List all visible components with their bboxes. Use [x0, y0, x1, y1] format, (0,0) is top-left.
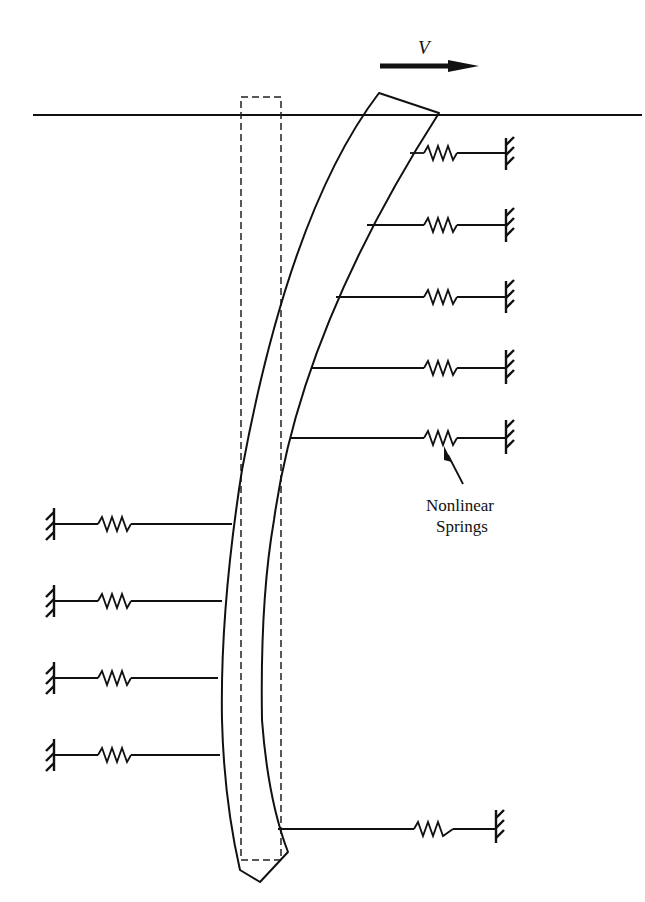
right-supports — [496, 137, 514, 843]
undeformed-pile-outline — [241, 97, 281, 860]
fixed-support-icon — [46, 739, 54, 771]
fixed-support-icon — [46, 662, 54, 694]
spring-right-6 — [278, 822, 496, 836]
spring-left-4 — [54, 748, 220, 762]
fixed-support-icon — [506, 350, 514, 384]
fixed-support-icon — [46, 508, 54, 540]
spring-left-2 — [54, 594, 222, 608]
pile-diagram: V — [0, 0, 645, 902]
spring-left-3 — [54, 671, 218, 685]
spring-right-4 — [311, 361, 506, 375]
spring-right-3 — [336, 290, 506, 304]
annotation-arrow — [444, 446, 463, 484]
fixed-support-icon — [496, 810, 504, 843]
spring-right-1 — [410, 146, 506, 160]
right-springs — [278, 146, 506, 836]
fixed-support-icon — [506, 137, 514, 170]
fixed-support-icon — [46, 585, 54, 617]
spring-right-5 — [290, 431, 506, 445]
fixed-support-icon — [506, 280, 514, 313]
left-supports — [46, 508, 54, 771]
load-label: V — [418, 37, 432, 58]
fixed-support-icon — [506, 420, 514, 454]
fixed-support-icon — [506, 208, 514, 242]
annotation-line-1: Nonlinear — [426, 496, 494, 515]
annotation-line-2: Springs — [436, 517, 488, 536]
deformed-pile — [222, 93, 439, 882]
spring-right-2 — [367, 218, 506, 232]
left-springs — [54, 517, 232, 762]
spring-left-1 — [54, 517, 232, 531]
load-arrow — [380, 60, 479, 72]
